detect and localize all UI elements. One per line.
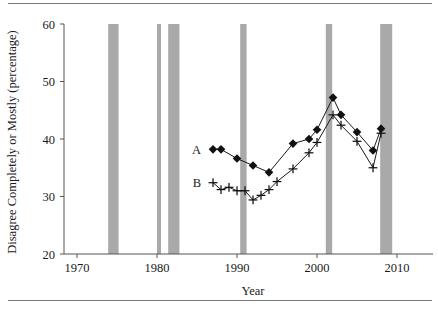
data-point-marker-plus [257,191,266,200]
recession-band [157,24,161,254]
series-label-b: B [193,176,201,190]
recession-band [168,24,179,254]
data-point-marker-diamond [249,161,258,170]
x-tick-label: 1980 [145,261,170,275]
bottom-divider-rule [8,300,432,301]
series-group [209,93,386,204]
series-label-a: A [192,143,201,157]
data-point-marker-diamond [209,145,218,154]
y-tick-label: 50 [43,75,56,89]
data-point-marker-plus [313,138,322,147]
y-axis-title: Disagree Completely or Mostly (percentag… [5,30,19,254]
series-labels-group: AB [192,143,201,190]
recession-band [380,24,392,254]
y-tick-label: 20 [43,248,56,262]
data-point-marker-plus [233,186,242,195]
x-tick-label: 2000 [305,261,330,275]
y-tick-labels-group: 2030405060 [43,18,65,262]
recession-band [326,24,332,254]
recession-band [108,24,118,254]
y-tick-label: 30 [43,190,56,204]
data-point-marker-plus [225,183,234,192]
line-chart: 2030405060 19701980199020002010 AB Disag… [0,0,438,313]
data-point-marker-plus [369,163,378,172]
x-axis-title: Year [241,284,265,298]
recession-band [240,24,246,254]
x-tick-label: 2010 [385,261,410,275]
data-point-marker-diamond [217,145,226,154]
y-tick-label: 40 [43,133,56,147]
x-tick-label: 1970 [65,261,90,275]
x-tick-labels-group: 19701980199020002010 [65,254,410,275]
recession-bands-group [108,24,392,254]
data-point-marker-diamond [233,154,242,163]
chart-figure: 2030405060 19701980199020002010 AB Disag… [0,0,438,313]
top-divider-rule [8,3,432,4]
y-tick-label: 60 [43,18,56,32]
x-tick-label: 1990 [225,261,250,275]
